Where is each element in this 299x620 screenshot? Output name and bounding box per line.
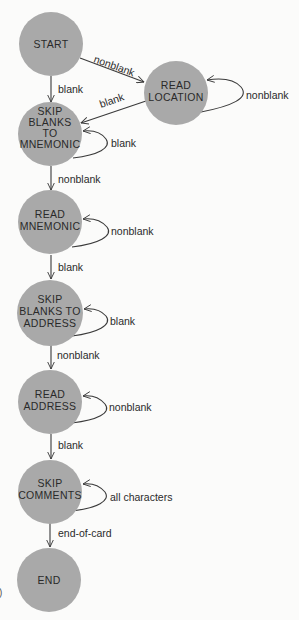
edge-label: nonblank (111, 225, 154, 237)
edge-label: end-of-card (58, 527, 112, 539)
state-read-location: READ LOCATION (144, 61, 208, 125)
state-label: COMMENTS (18, 489, 82, 501)
state-read-mnemonic: READ MNEMONIC (18, 190, 82, 254)
edge-read-mnemonic-self-loop: nonblank (72, 219, 154, 247)
state-skip-blanks-to-address: SKIP BLANKS TO ADDRESS (17, 280, 83, 346)
state-diagram: nonblank blank nonblank blank blank nonb… (0, 0, 299, 620)
state-label: SKIP (37, 293, 62, 305)
state-skip-comments: SKIP COMMENTS (18, 460, 82, 524)
state-label: ADDRESS (24, 400, 77, 412)
state-skip-blanks-to-mnemonic: SKIP BLANKS TO MNEMONIC (18, 102, 82, 166)
edge-start-to-skip-blanks-to-mnemonic: blank (51, 76, 84, 102)
edge-skip-blanks-to-mnemonic-self-loop: blank (73, 131, 137, 158)
edge-skip-comments-to-end: end-of-card (50, 522, 112, 547)
state-label: MNEMONIC (20, 220, 81, 232)
state-label: SKIP (37, 477, 62, 489)
edge-skip-blanks-to-address-to-read-address: nonblank (51, 345, 100, 369)
edge-read-location-self-loop: nonblank (201, 79, 289, 112)
state-label: START (34, 38, 69, 50)
edge-label: blank (98, 90, 126, 110)
edge-label: nonblank (57, 349, 100, 361)
state-label: ADDRESS (24, 317, 77, 329)
state-label: READ (161, 79, 191, 91)
state-label: LOCATION (148, 91, 203, 103)
edge-read-mnemonic-to-skip-blanks-to-address: blank (51, 255, 84, 279)
state-start: START (19, 12, 83, 76)
edge-label: blank (58, 261, 84, 273)
state-end: END (17, 548, 81, 612)
edge-read-address-to-skip-comments: blank (51, 434, 84, 459)
edge-label: nonblank (58, 173, 101, 185)
edge-label: blank (58, 439, 84, 451)
edge-read-location-to-skip-blanks-to-mnemonic: blank (81, 90, 146, 123)
edge-skip-blanks-to-mnemonic-to-read-mnemonic: nonblank (51, 166, 101, 190)
edge-label: blank (111, 137, 137, 149)
state-read-address: READ ADDRESS (18, 370, 82, 434)
state-label: READ (35, 388, 65, 400)
edge-label: nonblank (92, 53, 137, 79)
edge-start-to-read-location: nonblank (80, 53, 144, 82)
margin-artifact: ) (0, 587, 2, 598)
edge-skip-comments-self-loop: all characters (72, 484, 172, 511)
state-label: BLANKS TO (19, 305, 80, 317)
edge-read-address-self-loop: nonblank (72, 396, 152, 423)
edge-label: nonblank (246, 89, 289, 101)
edge-label: nonblank (109, 401, 152, 413)
state-label: READ (35, 208, 65, 220)
state-label: END (37, 574, 60, 586)
state-label: MNEMONIC (20, 138, 81, 150)
edge-label: all characters (110, 491, 172, 503)
edge-label: blank (58, 83, 84, 95)
edge-label: blank (110, 315, 136, 327)
